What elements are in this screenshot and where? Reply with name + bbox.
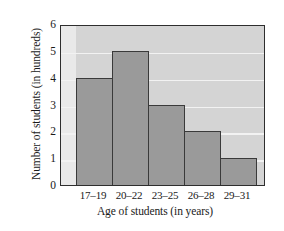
y-axis-tick-labels: 0123456 (38, 25, 56, 186)
histogram-figure: Number of students (in hundreds) 0123456… (0, 0, 284, 231)
y-tick-label: 6 (38, 19, 56, 31)
bar (220, 158, 257, 186)
y-tick-label: 1 (38, 153, 56, 165)
bar (76, 78, 113, 186)
bar (148, 105, 185, 187)
bar-series (61, 26, 264, 185)
x-axis-tick-labels: 17–1920–2223–2526–2829–31 (60, 188, 265, 203)
x-tick-label: 29–31 (215, 188, 259, 203)
y-tick-label: 2 (38, 127, 56, 139)
y-tick-label: 5 (38, 46, 56, 58)
y-tick-label: 0 (38, 180, 56, 192)
plot-area (60, 25, 265, 186)
x-axis-title: Age of students (in years) (40, 204, 270, 219)
y-tick-label: 4 (38, 73, 56, 85)
y-tick-label: 3 (38, 100, 56, 112)
bar (112, 51, 149, 186)
bar (184, 131, 221, 186)
